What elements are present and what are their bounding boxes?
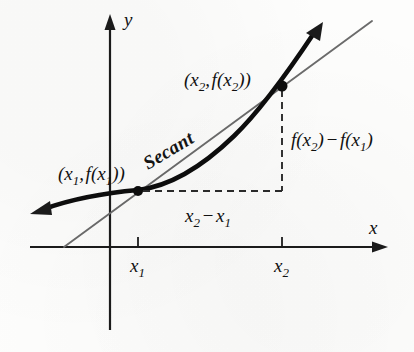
tick-label-x2-sub: 2: [282, 265, 289, 280]
secant-line-label: Secant: [139, 127, 197, 174]
tick-label-x2: x2: [273, 255, 289, 280]
point-marker-x2: [277, 81, 288, 92]
y-axis-arrowhead: [105, 14, 116, 30]
curve-arrowhead-left: [30, 201, 52, 215]
run-label: x2 − x1: [184, 205, 231, 230]
point-marker-x1: [133, 186, 143, 196]
diagram-canvas: y x x1 x2 (x1, f(x1)) (x2, f(x2)) f(x2) …: [0, 0, 414, 352]
secant-diagram-figure: y x x1 x2 (x1, f(x1)) (x2, f(x2)) f(x2) …: [0, 0, 414, 352]
x-axis-label: x: [368, 217, 378, 238]
y-axis-label: y: [122, 9, 133, 30]
point-label-x2: (x2, f(x2)): [184, 69, 251, 94]
point-label-x1: (x1, f(x1)): [58, 163, 125, 188]
tick-label-x1: x1: [129, 255, 145, 280]
rise-label: f(x2) − f(x1): [291, 129, 373, 154]
tick-label-x1-sub: 1: [138, 265, 145, 280]
x-axis-arrowhead: [372, 242, 388, 253]
